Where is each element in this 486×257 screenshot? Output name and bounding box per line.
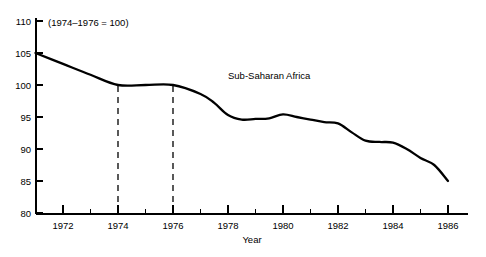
x-axis-ticks: 19721974197619781980198219841986 <box>36 205 459 231</box>
y-tick-label-85: 85 <box>20 176 31 187</box>
x-tick-label-1972: 1972 <box>52 220 73 231</box>
x-tick-label-1984: 1984 <box>382 220 403 231</box>
reference-lines <box>118 85 173 213</box>
base-period-note: (1974–1976 = 100) <box>48 17 129 28</box>
y-tick-label-80: 80 <box>20 208 31 219</box>
series-annotation-label: Sub-Saharan Africa <box>228 70 311 81</box>
x-tick-label-1980: 1980 <box>272 220 293 231</box>
x-tick-label-1986: 1986 <box>437 220 458 231</box>
chart-figure: 80859095100105110 1972197419761978198019… <box>0 0 486 257</box>
y-tick-label-90: 90 <box>20 144 31 155</box>
x-axis-title: Year <box>242 234 261 245</box>
y-tick-label-95: 95 <box>20 112 31 123</box>
y-tick-label-110: 110 <box>16 16 31 27</box>
y-tick-label-105: 105 <box>15 48 31 59</box>
x-tick-label-1976: 1976 <box>162 220 183 231</box>
index-line-chart: 80859095100105110 1972197419761978198019… <box>0 0 486 257</box>
x-tick-label-1974: 1974 <box>107 220 128 231</box>
x-tick-label-1982: 1982 <box>327 220 348 231</box>
y-tick-label-100: 100 <box>15 80 31 91</box>
chart-axes <box>36 18 468 214</box>
x-tick-label-1978: 1978 <box>217 220 238 231</box>
y-axis-ticks: 80859095100105110 <box>15 16 43 219</box>
